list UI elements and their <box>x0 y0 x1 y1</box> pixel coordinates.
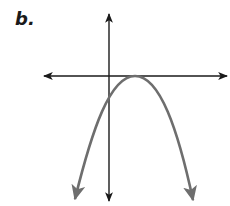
parabola-curve <box>75 76 193 200</box>
parabola-graph <box>0 0 230 206</box>
